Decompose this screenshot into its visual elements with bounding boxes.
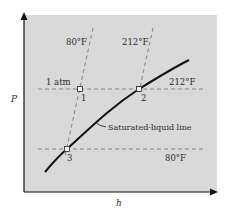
x-axis-label: h bbox=[116, 198, 122, 208]
isobar-1atm-label: 1 atm bbox=[46, 77, 71, 87]
isobar-80f-label: 80°F bbox=[165, 153, 186, 163]
saturated-liquid-line-label: Saturated-liquid line bbox=[108, 123, 192, 132]
point-2-label: 2 bbox=[141, 93, 146, 103]
point-2-marker bbox=[137, 87, 142, 92]
isotherm-left-label: 80°F bbox=[66, 37, 87, 47]
y-axis-label: P bbox=[10, 94, 18, 104]
isotherm-right-label: 212°F bbox=[122, 37, 148, 47]
isobar-212f-label: 212°F bbox=[169, 77, 195, 87]
point-3-marker bbox=[65, 147, 70, 152]
p-h-diagram: 80°F 212°F 1 atm 212°F 80°F 1 2 3 Satura… bbox=[0, 0, 228, 211]
point-1-label: 1 bbox=[81, 93, 86, 103]
point-1-marker bbox=[78, 87, 83, 92]
point-3-label: 3 bbox=[67, 153, 72, 163]
plot-area bbox=[24, 15, 217, 192]
